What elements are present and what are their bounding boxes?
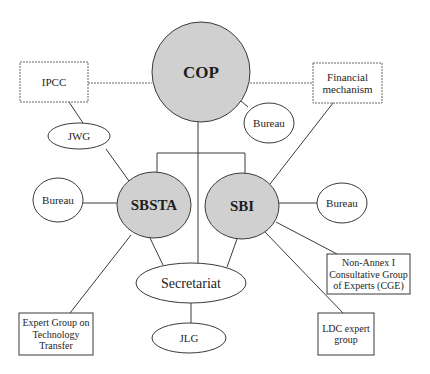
edge-jwg-sbsta [106,149,129,181]
edge-sbsta-secretariat [150,238,163,265]
ipcc-label: IPCC [42,76,66,88]
non-annex-cge-label: Non-Annex I [342,257,395,268]
jlg-label: JLG [180,332,199,344]
node-sbsta: SBSTA [117,172,191,238]
secretariat-label: Secretariat [161,276,221,291]
ldc-expert-group-label: group [334,334,357,345]
cop-label: COP [183,63,219,82]
edge-cop-bureau [241,101,248,107]
node-ipcc: IPCC [20,62,88,102]
non-annex-cge-label: Consultative Group [329,269,408,280]
edge-sbi-non-annex [276,222,337,254]
expert-group-technology-transfer-label: Transfer [39,340,73,351]
bureau-cop-label: Bureau [253,117,285,129]
node-sbi: SBI [205,173,279,239]
node-expert-group-technology-transfer: Expert Group onTechnologyTransfer [19,313,93,355]
sbsta-label: SBSTA [131,197,178,213]
node-ldc-expert-group: LDC expertgroup [318,313,374,355]
ldc-expert-group-label: LDC expert [322,323,370,334]
edge-sbsta-expert-group [70,235,131,313]
edge-ipcc-jwg [69,102,83,123]
bureau-sbsta-label: Bureau [42,194,74,206]
expert-group-technology-transfer-label: Technology [32,329,79,340]
non-annex-cge-label: of Experts (CGE) [333,280,404,292]
edge-bracket [157,153,245,173]
node-jlg: JLG [152,323,226,353]
node-bureau-sbsta: Bureau [33,178,83,222]
node-cop: COP [152,22,250,122]
edge-sbi-secretariat [227,239,237,267]
financial-mechanism-label: mechanism [322,83,373,95]
bureau-sbi-label: Bureau [326,197,358,209]
node-secretariat: Secretariat [136,263,246,303]
diagram-nodes: COPIPCCFinancialmechanismBureauJWGSBSTAS… [19,22,410,355]
financial-mechanism-label: Financial [327,71,368,83]
jwg-label: JWG [68,130,91,142]
node-bureau-sbi: Bureau [317,183,367,223]
node-non-annex-cge: Non-Annex IConsultative Groupof Experts … [327,254,410,294]
node-jwg: JWG [48,123,110,149]
node-financial-mechanism: Financialmechanism [313,63,382,103]
unfccc-institutional-diagram: COPIPCCFinancialmechanismBureauJWGSBSTAS… [0,0,430,374]
node-bureau-cop: Bureau [244,103,294,143]
expert-group-technology-transfer-label: Expert Group on [22,317,89,328]
sbi-label: SBI [230,198,254,214]
